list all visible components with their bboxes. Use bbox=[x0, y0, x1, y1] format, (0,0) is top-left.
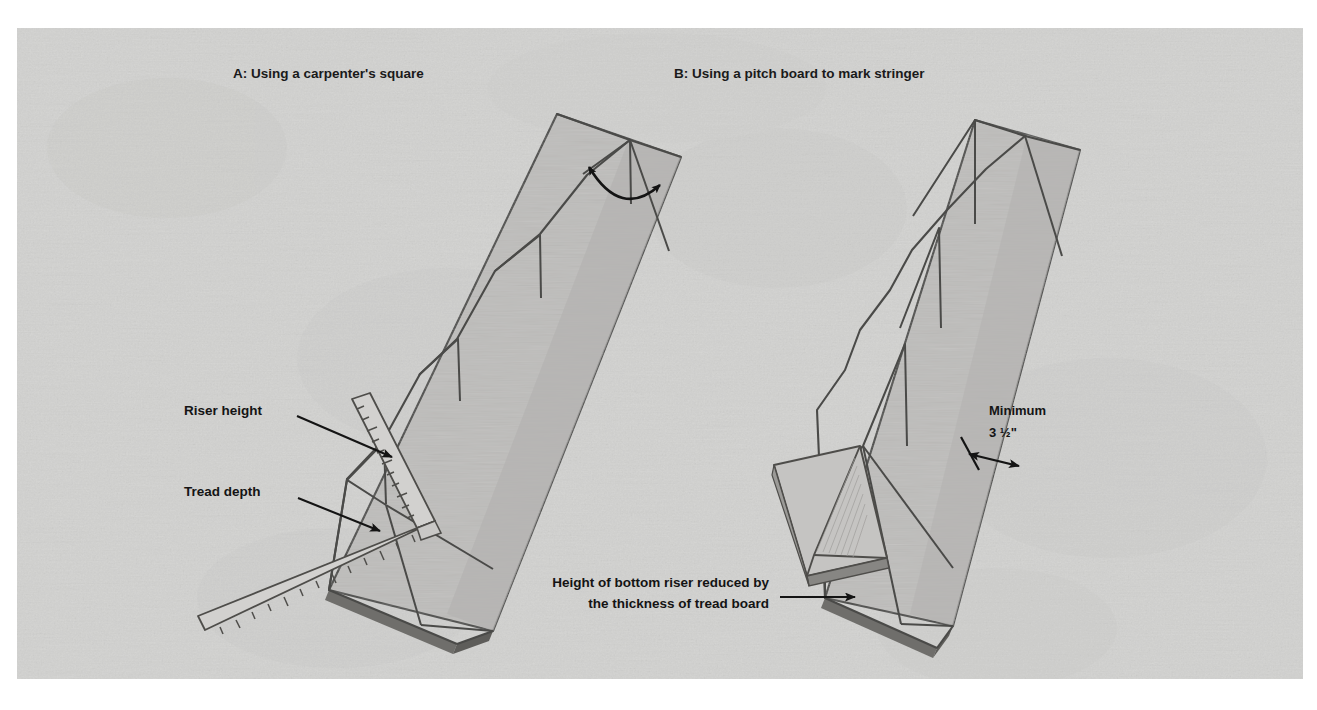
bottom-riser-caption-line2: the thickness of tread board bbox=[588, 596, 769, 611]
minimum-dimension-line1: Minimum bbox=[989, 403, 1046, 418]
stair-stringer-illustration: A: Using a carpenter's square bbox=[17, 28, 1303, 679]
riser-height-label: Riser height bbox=[184, 403, 263, 418]
tread-depth-label: Tread depth bbox=[184, 484, 261, 499]
panel-b-title: B: Using a pitch board to mark stringer bbox=[674, 66, 925, 81]
panel-a-title: A: Using a carpenter's square bbox=[233, 66, 424, 81]
bottom-riser-caption-line1: Height of bottom riser reduced by bbox=[552, 575, 769, 590]
figure-panel: A: Using a carpenter's square bbox=[17, 28, 1303, 679]
minimum-dimension-line2: 3 ½" bbox=[989, 425, 1017, 440]
illustration-stage: A: Using a carpenter's square bbox=[0, 0, 1317, 710]
